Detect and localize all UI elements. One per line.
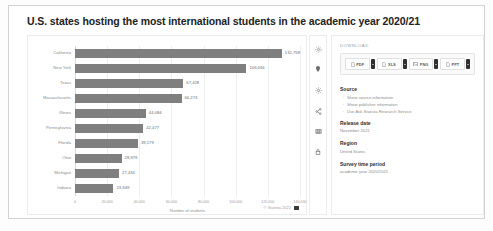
chart-bar-row[interactable]: New York106,694 [75, 61, 300, 76]
bar-value-label: 132,758 [285, 51, 300, 55]
download-pdf-button[interactable]: PDF [345, 58, 370, 70]
bar-category-label: California [53, 51, 71, 55]
bar-value-label: 66,273 [185, 96, 198, 100]
bar-value-label: 23,949 [116, 186, 129, 190]
bar-category-label: Illinois [59, 111, 71, 115]
screenshot-root: U.S. states hosting the most internation… [0, 0, 493, 231]
source-heading: Source [340, 86, 475, 92]
bar-category-label: Florida [58, 141, 71, 145]
bar-category-label: Texas [60, 81, 71, 85]
chart-bar-row[interactable]: Massachusetts66,273 [75, 91, 300, 106]
bar-value-label: 106,694 [249, 66, 264, 70]
meta-heading: Region [340, 140, 475, 146]
ppt-file-icon [446, 62, 450, 67]
bar[interactable] [75, 94, 182, 103]
arrow-right-icon: → [340, 95, 345, 100]
bar-category-label: Pennsylvania [46, 126, 71, 130]
chevron-down-icon[interactable] [434, 59, 438, 69]
download-button-group: PDFXLSPNGPPT [340, 53, 475, 75]
copyright-text: © Statista 2022 [264, 205, 291, 210]
chart-bar-row[interactable]: Michigan27,434 [75, 166, 300, 181]
meta-heading: Release date [340, 120, 475, 126]
bar[interactable] [75, 184, 113, 193]
download-pdf-control: PDF [345, 58, 375, 70]
chart-bar-row[interactable]: Indiana23,949 [75, 181, 300, 196]
chart-plot-area: California132,758New York106,694Texas67,… [28, 40, 306, 214]
bar-value-label: 27,434 [122, 171, 135, 175]
meta-value: academic year 2020/2021 [340, 169, 475, 174]
bar-value-label: 28,979 [125, 156, 138, 160]
bar[interactable] [75, 64, 246, 73]
chevron-down-icon[interactable] [403, 59, 407, 69]
meta-value: United States [340, 149, 475, 154]
download-button-label: PDF [356, 62, 364, 67]
pin-icon[interactable] [313, 65, 324, 76]
download-png-control: PNG [409, 58, 439, 70]
chart-copyright: © Statista 2022 [264, 205, 299, 210]
bar-value-label: 42,477 [146, 126, 159, 130]
chart-bar-row[interactable]: Ohio28,979 [75, 151, 300, 166]
chart-bar-row[interactable]: Florida39,179 [75, 136, 300, 151]
download-button-label: PPT [451, 62, 459, 67]
bar-category-label: Massachusetts [43, 96, 71, 100]
chart-tool-rail [309, 35, 327, 215]
xls-file-icon [382, 62, 386, 67]
bar-category-label: Indiana [57, 186, 71, 190]
chart-bar-row[interactable]: Texas67,428 [75, 76, 300, 91]
x-tick-label: 0 [74, 200, 76, 204]
meta-sections: Release dateNovember 2021RegionUnited St… [340, 120, 475, 175]
source-links: →Show source information→Show publisher … [340, 95, 475, 114]
bar[interactable] [75, 154, 122, 163]
download-button-label: XLS [388, 62, 396, 67]
page-title: U.S. states hosting the most internation… [27, 15, 420, 27]
bar[interactable] [75, 109, 146, 118]
x-tick-label: 60,000 [166, 200, 177, 204]
source-section: Source →Show source information→Show pub… [340, 86, 475, 114]
bar-value-label: 67,428 [186, 81, 199, 85]
chart-panel: California132,758New York106,694Texas67,… [27, 35, 307, 215]
source-link[interactable]: →Use Ask Statista Research Service [340, 109, 475, 114]
meta-block: Release dateNovember 2021 [340, 120, 475, 134]
download-button-label: PNG [420, 62, 429, 67]
chart-bar-row[interactable]: Illinois44,084 [75, 106, 300, 121]
bar[interactable] [75, 79, 183, 88]
chart-info-panel: DOWNLOAD PDFXLSPNGPPT Source →Show sourc… [331, 35, 484, 215]
chevron-down-icon[interactable] [371, 59, 375, 69]
gear-icon[interactable] [313, 85, 324, 96]
lock-icon[interactable] [313, 147, 324, 158]
chart-bar-row[interactable]: Pennsylvania42,477 [75, 121, 300, 136]
png-image-icon [413, 62, 418, 67]
bar-category-label: New York [53, 66, 71, 70]
table-icon[interactable] [313, 126, 324, 137]
x-tick-label: 140,000 [294, 200, 307, 204]
meta-block: Survey time periodacademic year 2020/202… [340, 161, 475, 175]
bar[interactable] [75, 49, 282, 58]
gridline [300, 46, 301, 196]
meta-heading: Survey time period [340, 161, 475, 167]
download-ppt-button[interactable]: PPT [440, 58, 465, 70]
settings-icon[interactable] [313, 44, 324, 55]
source-link[interactable]: →Show source information [340, 95, 475, 100]
x-tick-label: 20,000 [102, 200, 113, 204]
bar[interactable] [75, 169, 119, 178]
bar[interactable] [75, 124, 143, 133]
source-link[interactable]: →Show publisher information [340, 102, 475, 107]
x-tick-label: 120,000 [261, 200, 274, 204]
chevron-down-icon[interactable] [466, 59, 470, 69]
download-xls-button[interactable]: XLS [377, 58, 402, 70]
bar-value-label: 44,084 [149, 111, 162, 115]
x-tick-label: 100,000 [229, 200, 242, 204]
chart-bar-row[interactable]: California132,758 [75, 46, 300, 61]
x-tick-label: 40,000 [134, 200, 145, 204]
arrow-right-icon: → [340, 109, 345, 114]
download-xls-control: XLS [377, 58, 407, 70]
share-icon[interactable] [313, 106, 324, 117]
source-link-label: Show source information [347, 95, 393, 100]
bar[interactable] [75, 139, 138, 148]
bar-category-label: Michigan [54, 171, 71, 175]
download-caption: DOWNLOAD [340, 43, 475, 48]
download-png-button[interactable]: PNG [409, 58, 434, 70]
source-link-label: Show publisher information [347, 102, 398, 107]
bar-value-label: 39,179 [141, 141, 154, 145]
chart-bars: California132,758New York106,694Texas67,… [75, 46, 300, 196]
